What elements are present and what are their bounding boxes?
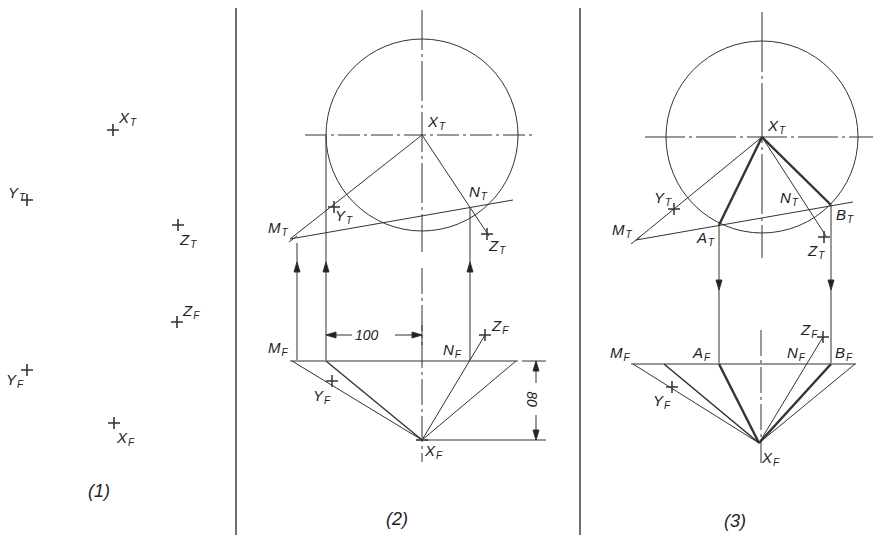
label-xf: XF: [425, 443, 442, 461]
label-xt: XT: [428, 114, 445, 132]
label-af: AF: [693, 345, 710, 363]
label-yf: YF: [313, 388, 330, 406]
label-y-front: YF: [6, 372, 23, 390]
label-bt: BT: [836, 207, 853, 225]
label-at: AT: [697, 230, 714, 248]
label-zt: ZT: [808, 243, 824, 261]
label-nf: NF: [787, 345, 805, 363]
label-yf: YF: [653, 393, 670, 411]
descriptive-geometry-figure: XT YT ZT ZF YF XF (1) XT NT MT YT ZT ZF …: [0, 0, 876, 543]
label-mf: MF: [268, 340, 288, 358]
label-xt: XT: [768, 118, 785, 136]
label-x-front: XF: [117, 430, 134, 448]
drawing-canvas: [0, 0, 876, 543]
label-zt: ZT: [489, 238, 505, 256]
label-zf: ZF: [492, 318, 508, 336]
caption-panel-1: (1): [88, 482, 110, 500]
caption-panel-2: (2): [386, 510, 408, 528]
label-nt: NT: [780, 190, 798, 208]
label-bf: BF: [835, 345, 852, 363]
label-yt: YT: [335, 208, 352, 226]
dimension-80: 80: [525, 391, 539, 407]
label-nt: NT: [469, 184, 487, 202]
label-mt: MT: [268, 220, 288, 238]
label-yt: YT: [654, 190, 671, 208]
dimension-100: 100: [355, 328, 378, 342]
panel1-points: [21, 124, 184, 429]
label-mt: MT: [612, 222, 632, 240]
label-zf: ZF: [801, 322, 817, 340]
label-z-top: ZT: [180, 232, 196, 250]
label-x-top: XT: [119, 110, 136, 128]
label-xf: XF: [762, 450, 779, 468]
label-y-top: YT: [8, 185, 25, 203]
label-mf: MF: [610, 345, 630, 363]
label-z-front: ZF: [183, 303, 199, 321]
label-nf: NF: [443, 342, 461, 360]
caption-panel-3: (3): [724, 512, 746, 530]
